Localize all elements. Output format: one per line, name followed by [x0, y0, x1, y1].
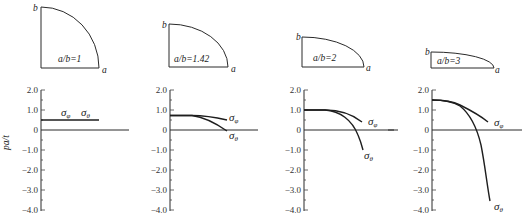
corner-a-label: a: [102, 65, 107, 75]
corner-b-label: b: [296, 32, 301, 42]
corner-b-label: b: [33, 3, 38, 13]
panel-2: b a a/b=1.42 2.0 1.0 0 −1.0 −2.0 −3.0: [151, 20, 258, 215]
ytick-label: −4.0: [22, 205, 39, 215]
panel-3: b a a/b=2 2.0 1.0 0 −1.0 −2.0 −3.0: [285, 32, 394, 215]
shell-shape-3: b a a/b=2: [296, 32, 371, 73]
sigma-theta-label: σθ: [364, 149, 373, 163]
ytick-label: −1.0: [151, 145, 168, 155]
ytick-label: −1.0: [413, 145, 430, 155]
sigma-phi-label: σφ: [368, 115, 377, 129]
corner-a-label: a: [495, 65, 500, 75]
ytick-label: −4.0: [151, 205, 168, 215]
ytick-label: −3.0: [285, 185, 302, 195]
sigma-theta-label: σθ: [81, 106, 90, 120]
shell-shape-1: b a a/b=1: [33, 3, 107, 75]
ytick-label: −4.0: [285, 205, 302, 215]
stress-curves-4: σφ σθ: [432, 100, 503, 214]
ytick-label: −4.0: [413, 205, 430, 215]
ratio-label: a/b=1: [58, 54, 81, 64]
sigma-theta-label: σθ: [229, 129, 238, 143]
panel-1: b a a/b=1 2.0 1.0 0 −1.0 −2.0 −3.0: [1, 3, 129, 215]
ytick-label: 1.0: [290, 105, 302, 115]
stress-curves-2: σφ σθ: [170, 111, 238, 143]
ratio-label: a/b=1.42: [174, 54, 209, 64]
ytick-label: −3.0: [22, 185, 39, 195]
corner-b-label: b: [162, 20, 167, 30]
sigma-theta-label: σθ: [494, 200, 503, 214]
shell-shape-2: b a a/b=1.42: [162, 20, 236, 74]
ytick-label: −1.0: [285, 145, 302, 155]
ytick-label: −2.0: [413, 165, 430, 175]
ytick-label: −2.0: [151, 165, 168, 175]
ytick-label: 0: [163, 125, 168, 135]
ratio-label: a/b=2: [313, 53, 337, 63]
ytick-label: 0: [297, 125, 302, 135]
ytick-label: 1.0: [27, 105, 39, 115]
ytick-label: 2.0: [27, 85, 39, 95]
chart-axes-3: 2.0 1.0 0 −1.0 −2.0 −3.0 −4.0: [285, 85, 394, 215]
corner-a-label: a: [366, 63, 371, 73]
ytick-label: −3.0: [151, 185, 168, 195]
chart-axes-1: 2.0 1.0 0 −1.0 −2.0 −3.0 −4.0 pa/t: [1, 85, 129, 215]
shell-shape-4: b a a/b=3: [425, 47, 500, 75]
ytick-label: 2.0: [156, 85, 168, 95]
ytick-label: −2.0: [285, 165, 302, 175]
panel-4: b a a/b=3 2.0 1.0 0 −1.0 −2.0 −3.0: [388, 47, 522, 215]
ytick-label: 2.0: [290, 85, 302, 95]
chart-axes-4: 2.0 1.0 0 −1.0 −2.0 −3.0 −4.0: [388, 85, 522, 215]
y-axis-label: pa/t: [1, 135, 11, 151]
ytick-label: −2.0: [22, 165, 39, 175]
ytick-label: 0: [34, 125, 39, 135]
ytick-label: −1.0: [22, 145, 39, 155]
sigma-phi-label: σφ: [61, 106, 70, 120]
stress-curves-1: σφ σθ: [41, 106, 99, 120]
ytick-label: 1.0: [418, 105, 430, 115]
sigma-phi-label: σφ: [229, 111, 238, 125]
ytick-label: 0: [425, 125, 430, 135]
corner-b-label: b: [425, 47, 430, 57]
corner-a-label: a: [231, 64, 236, 74]
ratio-label: a/b=3: [437, 56, 461, 66]
stress-curves-3: σφ σθ: [304, 110, 377, 163]
chart-axes-2: 2.0 1.0 0 −1.0 −2.0 −3.0 −4.0: [151, 85, 258, 215]
sigma-phi-label: σφ: [494, 116, 503, 130]
stress-figure: b a a/b=1 2.0 1.0 0 −1.0 −2.0 −3.0: [0, 0, 526, 220]
ytick-label: 1.0: [156, 105, 168, 115]
ytick-label: −3.0: [413, 185, 430, 195]
ytick-label: 2.0: [418, 85, 430, 95]
